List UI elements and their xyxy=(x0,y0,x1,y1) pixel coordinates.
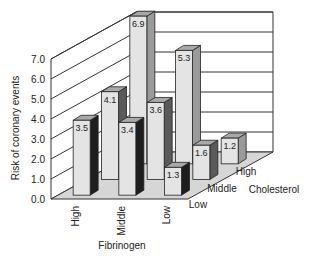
depth-category-label: Middle xyxy=(207,183,237,194)
bar-value-label: 3.5 xyxy=(75,123,88,133)
bar-value-label: 3.4 xyxy=(121,125,134,135)
y-tick-label: 3.0 xyxy=(31,134,45,145)
bar: 3.5 xyxy=(73,115,98,195)
y-axis-ticks: 0.01.02.03.04.05.06.07.0 xyxy=(31,54,45,205)
x-category-label: Middle xyxy=(116,206,127,236)
x-category-label: High xyxy=(70,206,81,227)
bar-value-label: 1.2 xyxy=(223,141,236,151)
y-tick-label: 4.0 xyxy=(31,114,45,125)
y-tick-label: 7.0 xyxy=(31,54,45,65)
y-tick-label: 5.0 xyxy=(31,94,45,105)
y-tick-label: 1.0 xyxy=(31,174,45,185)
x-axis-categories: HighMiddleLow xyxy=(70,205,172,235)
bar-chart-3d: 1.25.36.91.63.64.11.33.43.5 0.01.02.03.0… xyxy=(0,0,324,259)
depth-axis-title: Cholesterol xyxy=(249,184,300,195)
bar-value-label: 1.3 xyxy=(167,170,180,180)
y-tick-label: 2.0 xyxy=(31,154,45,165)
chart-container: 1.25.36.91.63.64.11.33.43.5 0.01.02.03.0… xyxy=(0,0,324,259)
y-axis-title: Risk of coronary events xyxy=(10,76,21,181)
bar: 1.6 xyxy=(193,140,218,179)
bar: 1.2 xyxy=(221,133,246,164)
bar-value-label: 6.9 xyxy=(132,19,145,29)
x-category-label: Low xyxy=(161,205,172,224)
bar-value-label: 1.6 xyxy=(195,148,208,158)
y-tick-label: 6.0 xyxy=(31,74,45,85)
bar: 3.4 xyxy=(119,117,144,195)
bar: 1.3 xyxy=(165,162,190,195)
y-tick-label: 0.0 xyxy=(31,194,45,205)
depth-category-label: Low xyxy=(189,199,208,210)
bar-value-label: 4.1 xyxy=(104,95,117,105)
bar-value-label: 3.6 xyxy=(149,105,162,115)
x-axis-title: Fibrinogen xyxy=(98,240,145,251)
depth-category-label: High xyxy=(236,166,257,177)
bar-value-label: 5.3 xyxy=(178,53,191,63)
